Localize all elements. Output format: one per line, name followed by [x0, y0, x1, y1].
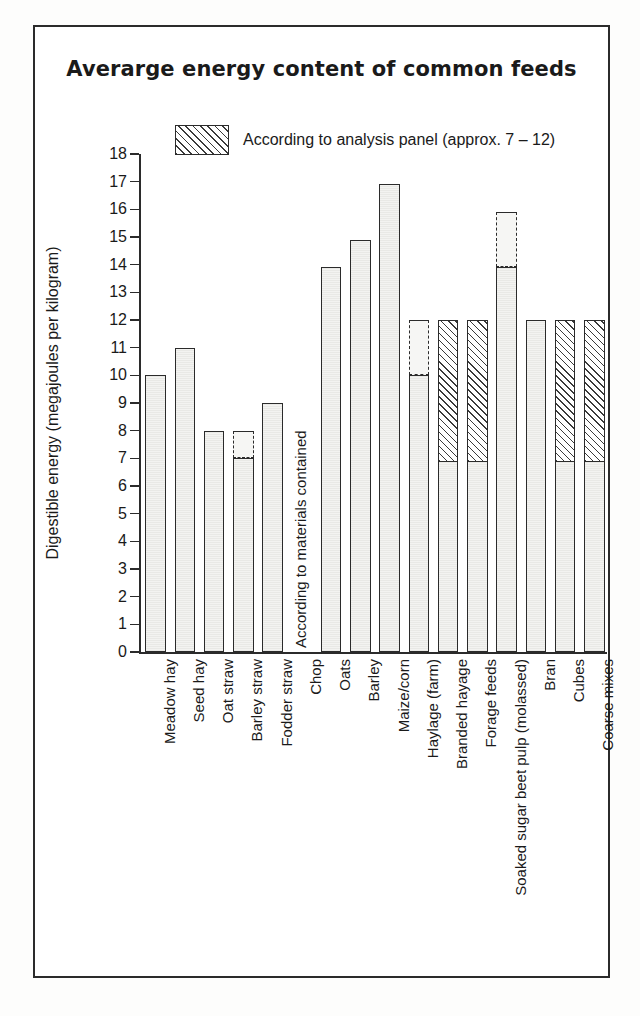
x-axis-label: Soaked sugar beet pulp (molassed): [513, 659, 528, 896]
x-axis-label: Coarse mixes: [600, 659, 615, 751]
x-axis-label: Maize/corn: [396, 659, 411, 732]
bar[interactable]: [233, 458, 253, 652]
y-tick-label: 7: [101, 450, 127, 466]
x-axis-line: [139, 652, 607, 654]
y-tick-label: 3: [101, 561, 127, 577]
bar-hatched-range: [438, 320, 458, 461]
x-axis-label: Seed hay: [191, 659, 206, 722]
y-tick: [130, 513, 139, 515]
bar-slot[interactable]: [555, 154, 575, 652]
bar[interactable]: [145, 375, 165, 652]
y-tick-label: 14: [101, 257, 127, 273]
y-tick: [130, 541, 139, 543]
chart-legend: According to analysis panel (approx. 7 –…: [175, 125, 555, 155]
y-tick: [130, 236, 139, 238]
plot-area: Digestible energy (megajoules per kilogr…: [139, 154, 607, 652]
y-tick: [130, 458, 139, 460]
y-tick: [130, 292, 139, 294]
x-axis-label: Cubes: [571, 659, 586, 702]
y-tick: [130, 596, 139, 598]
y-tick: [130, 402, 139, 404]
bar-dashed-extension: [496, 212, 516, 267]
y-tick: [130, 264, 139, 266]
y-tick-label: 1: [101, 616, 127, 632]
x-axis-label: Bran: [542, 659, 557, 691]
x-axis-label: Chop: [308, 659, 323, 695]
bar-slot[interactable]: [584, 154, 604, 652]
y-tick-label: 10: [101, 367, 127, 383]
y-tick-label: 15: [101, 229, 127, 245]
bar[interactable]: [409, 375, 429, 652]
y-tick: [130, 209, 139, 211]
y-tick-label: 6: [101, 478, 127, 494]
bar-dashed-extension: [409, 320, 429, 375]
y-tick-label: 0: [101, 644, 127, 660]
bar[interactable]: [526, 320, 546, 652]
bar[interactable]: [321, 267, 341, 652]
bar-slot[interactable]: [321, 154, 341, 652]
bar[interactable]: [379, 184, 399, 652]
bar-slot[interactable]: [145, 154, 165, 652]
x-axis-label: Oat straw: [220, 659, 235, 723]
y-tick-label: 5: [101, 506, 127, 522]
y-tick: [130, 153, 139, 155]
chart-title: Averarge energy content of common feeds: [35, 57, 608, 81]
bar-hatched-range: [555, 320, 575, 461]
bar[interactable]: [438, 461, 458, 652]
y-tick-label: 18: [101, 146, 127, 162]
x-axis-label: Meadow hay: [162, 659, 177, 744]
bar[interactable]: [555, 461, 575, 652]
bar[interactable]: [584, 461, 604, 652]
y-tick-label: 16: [101, 201, 127, 217]
legend-label: According to analysis panel (approx. 7 –…: [243, 131, 555, 149]
y-tick: [130, 485, 139, 487]
bar-slot[interactable]: [204, 154, 224, 652]
y-tick-label: 2: [101, 589, 127, 605]
y-tick-label: 11: [101, 340, 127, 356]
hatched-swatch-icon: [175, 125, 229, 155]
bar[interactable]: [467, 461, 487, 652]
bar[interactable]: [175, 348, 195, 652]
y-tick: [130, 430, 139, 432]
bar-slot[interactable]: [467, 154, 487, 652]
x-axis-label: Branded hayage: [454, 659, 469, 769]
y-tick-label: 17: [101, 174, 127, 190]
bar[interactable]: [204, 431, 224, 652]
bar-hatched-range: [584, 320, 604, 461]
y-tick: [130, 181, 139, 183]
bar-slot[interactable]: [409, 154, 429, 652]
bar-slot[interactable]: [262, 154, 282, 652]
bar-hatched-range: [467, 320, 487, 461]
y-tick-label: 8: [101, 423, 127, 439]
y-tick-label: 9: [101, 395, 127, 411]
y-tick: [130, 375, 139, 377]
bar-slot[interactable]: [175, 154, 195, 652]
bar-slot[interactable]: [350, 154, 370, 652]
bar-slot[interactable]: [526, 154, 546, 652]
y-tick: [130, 568, 139, 570]
y-tick-label: 13: [101, 284, 127, 300]
x-axis-label: Oats: [337, 659, 352, 691]
bar-slot[interactable]: [379, 154, 399, 652]
y-tick: [130, 347, 139, 349]
x-axis-label: Fodder straw: [279, 659, 294, 747]
chop-annotation: According to materials contained: [292, 430, 309, 648]
y-tick: [130, 319, 139, 321]
bar-slot[interactable]: [233, 154, 253, 652]
y-tick-label: 4: [101, 533, 127, 549]
y-tick: [130, 651, 139, 653]
bar-slot[interactable]: According to materials contained: [292, 154, 312, 652]
x-axis-label: Forage feeds: [483, 659, 498, 747]
x-axis-labels: Meadow haySeed hayOat strawBarley strawF…: [139, 659, 607, 979]
bar-dashed-extension: [233, 431, 253, 459]
y-tick: [130, 624, 139, 626]
figure-frame: Averarge energy content of common feeds …: [33, 25, 610, 978]
bar[interactable]: [350, 240, 370, 652]
bar-slot[interactable]: [438, 154, 458, 652]
bar[interactable]: [262, 403, 282, 652]
x-axis-label: Haylage (farm): [425, 659, 440, 758]
bar[interactable]: [496, 267, 516, 652]
x-axis-label: Barley straw: [249, 659, 264, 742]
x-axis-label: Barley: [366, 659, 381, 702]
bar-slot[interactable]: [496, 154, 516, 652]
